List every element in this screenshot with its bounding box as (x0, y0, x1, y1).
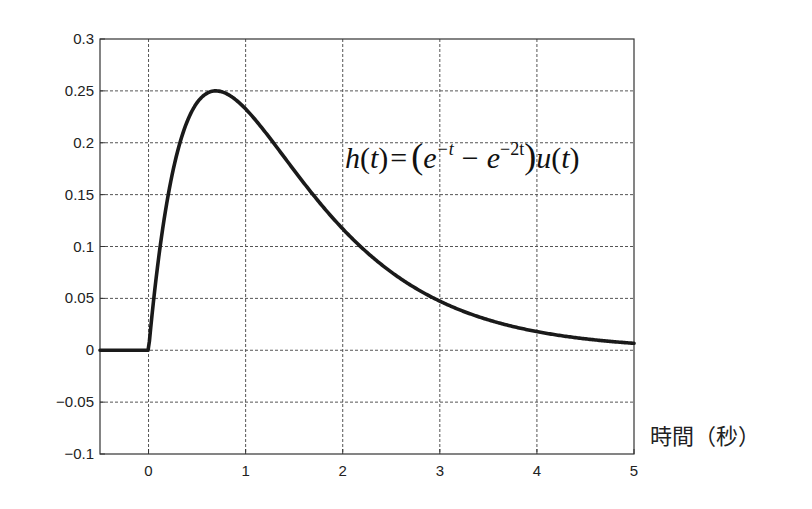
x-tick-label: 5 (630, 462, 638, 479)
x-tick-label: 4 (533, 462, 541, 479)
x-axis-label: 時間（秒） (650, 424, 760, 449)
x-tick-label: 1 (241, 462, 249, 479)
x-tick-label: 3 (436, 462, 444, 479)
y-tick-label: 0.25 (65, 82, 94, 99)
x-tick-label: 2 (339, 462, 347, 479)
y-tick-label: −0.1 (64, 445, 94, 462)
y-tick-label: 0 (86, 341, 94, 358)
y-tick-label: 0.05 (65, 289, 94, 306)
y-axis-ticks: −0.1−0.0500.050.10.150.20.250.3 (56, 30, 105, 462)
h-of-t-curve (100, 91, 634, 350)
x-tick-label: 0 (144, 462, 152, 479)
impulse-response-chart: −0.1−0.0500.050.10.150.20.250.3 012345 h… (0, 0, 812, 509)
y-tick-label: 0.3 (73, 30, 94, 47)
formula-annotation: h(t)=(e−t−e−2t)u(t) (345, 136, 580, 176)
grid-lines (100, 39, 634, 454)
y-tick-label: 0.2 (73, 134, 94, 151)
y-tick-label: 0.15 (65, 186, 94, 203)
y-tick-label: 0.1 (73, 238, 94, 255)
y-tick-label: −0.05 (56, 393, 94, 410)
